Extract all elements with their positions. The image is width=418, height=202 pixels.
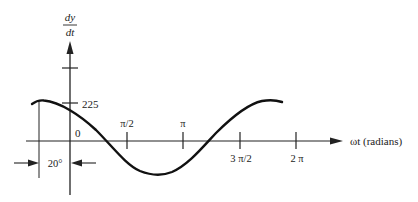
- origin-label: 0: [75, 127, 81, 139]
- phase-angle-label: 20°: [48, 158, 63, 169]
- y-axis-arrow-icon: [67, 41, 74, 54]
- x-tick-label-2pi: 2 π: [290, 153, 304, 164]
- y-axis-label-numerator: dy: [65, 11, 76, 23]
- x-tick-label-pi: π: [180, 118, 186, 129]
- y-tick-label-225: 225: [82, 98, 99, 110]
- phase-arrow-left-icon: [71, 160, 82, 167]
- phase-arrow-right-icon: [28, 160, 39, 167]
- y-axis-label-denominator: dt: [66, 26, 76, 38]
- waveform-diagram: dy dt 225 0 π/2 π 3 π/2 2 π ωt (radians)…: [0, 0, 418, 202]
- x-axis-arrow-icon: [330, 138, 343, 145]
- x-axis-label: ωt (radians): [350, 135, 402, 148]
- x-tick-label-3pi-half: 3 π/2: [230, 153, 251, 164]
- x-tick-label-pi-half: π/2: [120, 118, 133, 129]
